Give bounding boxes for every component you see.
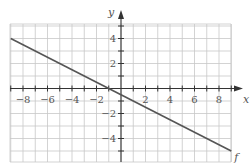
x-tick-label: −8 bbox=[16, 94, 31, 105]
y-tick-label: −4 bbox=[101, 133, 116, 144]
x-axis-arrow-icon bbox=[234, 86, 243, 92]
y-tick-label: −2 bbox=[101, 108, 116, 119]
y-axis-label: y bbox=[107, 6, 115, 19]
x-tick-label: −4 bbox=[65, 94, 80, 105]
line-chart: −8−6−4−22468−4−224 x y f bbox=[0, 0, 251, 166]
function-label: f bbox=[233, 151, 240, 164]
x-tick-label: 4 bbox=[167, 94, 173, 105]
x-tick-label: 6 bbox=[191, 94, 197, 105]
y-tick-label: 4 bbox=[110, 33, 116, 44]
x-tick-label: 8 bbox=[216, 94, 222, 105]
x-tick-label: 2 bbox=[142, 94, 148, 105]
y-tick-label: 2 bbox=[110, 58, 116, 69]
y-axis-arrow-icon bbox=[118, 10, 124, 19]
x-tick-label: −6 bbox=[40, 94, 55, 105]
x-tick-label: −2 bbox=[89, 94, 104, 105]
x-axis-label: x bbox=[243, 93, 250, 106]
